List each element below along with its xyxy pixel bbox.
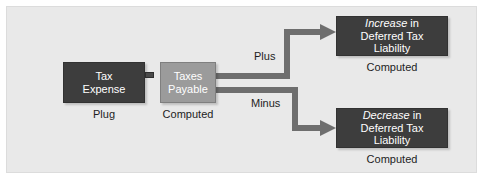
node-tax-expense-line2: Expense xyxy=(83,83,126,95)
node-increase-dtl-text: Increase in Deferred Tax Liability xyxy=(337,17,447,56)
node-taxes-payable-text: Taxes Payable xyxy=(161,70,215,96)
node-decrease-dtl-line2: Deferred Tax Liability xyxy=(361,122,424,147)
diagram-canvas: Tax Expense Plug Taxes Payable Computed … xyxy=(0,0,483,179)
equals-sign xyxy=(145,72,154,78)
node-decrease-dtl: Decrease in Deferred Tax Liability xyxy=(336,108,448,148)
node-increase-dtl-line2: Deferred Tax Liability xyxy=(361,30,424,55)
node-taxes-payable-line2: Payable xyxy=(168,83,208,95)
node-increase-dtl-line1-rest: in xyxy=(407,17,419,29)
caption-taxes-payable: Computed xyxy=(152,108,224,120)
node-tax-expense: Tax Expense xyxy=(63,62,145,103)
node-tax-expense-line1: Tax xyxy=(95,70,112,82)
node-increase-dtl: Increase in Deferred Tax Liability xyxy=(336,16,448,56)
node-decrease-dtl-text: Decrease in Deferred Tax Liability xyxy=(337,109,447,148)
node-decrease-dtl-emphasis: Decrease xyxy=(363,109,410,121)
node-decrease-dtl-line1-rest: in xyxy=(410,109,422,121)
node-tax-expense-text: Tax Expense xyxy=(64,70,144,96)
caption-tax-expense: Plug xyxy=(63,108,145,120)
node-increase-dtl-emphasis: Increase xyxy=(365,17,407,29)
node-taxes-payable: Taxes Payable xyxy=(160,62,216,103)
branch-label-minus: Minus xyxy=(251,97,280,109)
node-taxes-payable-line1: Taxes xyxy=(174,70,203,82)
caption-decrease-dtl: Computed xyxy=(336,153,448,165)
caption-increase-dtl: Computed xyxy=(336,61,448,73)
branch-label-plus: Plus xyxy=(254,50,275,62)
